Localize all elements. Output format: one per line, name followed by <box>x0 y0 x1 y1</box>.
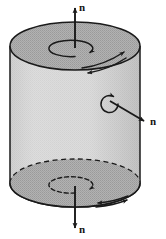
normal-label-top: n <box>79 2 85 13</box>
cylinder-normal-vector-figure: n n n <box>0 0 166 239</box>
figure-canvas <box>0 0 166 239</box>
normal-label-bottom: n <box>79 224 85 235</box>
normal-label-side: n <box>150 116 156 127</box>
